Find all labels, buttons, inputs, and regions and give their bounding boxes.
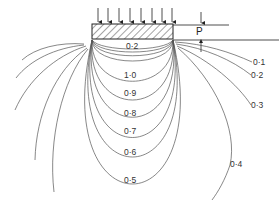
load-p-indicator: P xyxy=(196,12,203,52)
label-0-5: 0·5 xyxy=(124,175,137,185)
label-0-8: 0·8 xyxy=(124,108,137,118)
load-label: P xyxy=(196,26,203,37)
label-0-7: 0·7 xyxy=(124,126,137,136)
label-1-0: 1·0 xyxy=(124,70,137,80)
label-0-1: 0·1 xyxy=(253,57,266,67)
footing xyxy=(92,24,173,39)
label-inner-0-2: 0·2 xyxy=(126,41,139,51)
left-outer-contours xyxy=(15,44,88,192)
pressure-bulb-diagram: P 0·2 1·0 0·9 0·8 0·7 0·6 xyxy=(0,0,279,205)
label-0-9: 0·9 xyxy=(124,88,137,98)
label-outer-0-2: 0·2 xyxy=(251,70,264,80)
label-0-6: 0·6 xyxy=(124,147,137,157)
label-0-3: 0·3 xyxy=(251,100,264,110)
label-0-4: 0·4 xyxy=(230,159,243,169)
load-arrows xyxy=(98,8,172,22)
contour-labels: 0·2 1·0 0·9 0·8 0·7 0·6 0·5 0·1 0·2 0·3 … xyxy=(124,41,266,185)
right-outer-contours xyxy=(175,42,252,200)
